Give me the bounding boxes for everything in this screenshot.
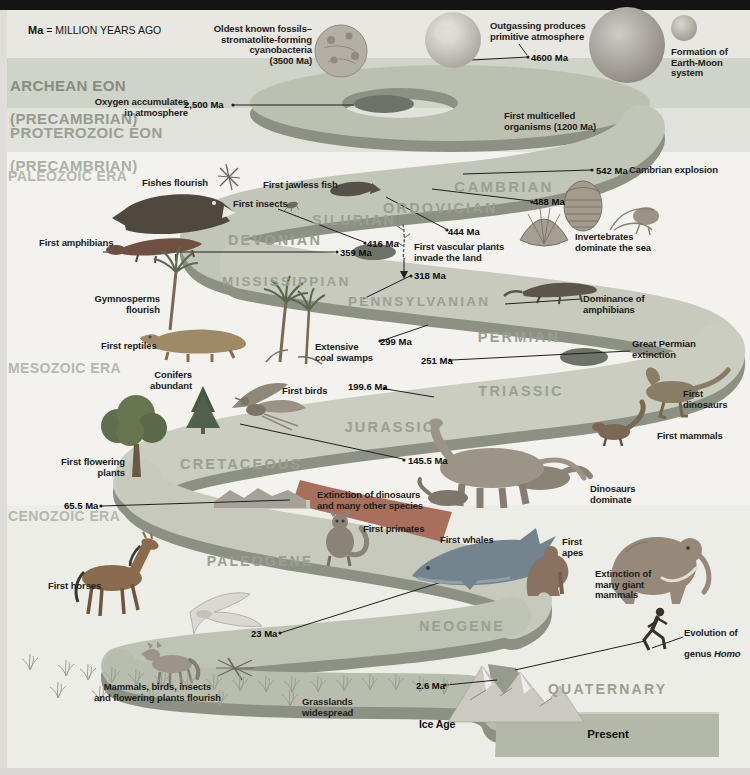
geologic-time-spiral-figure: Ma = MILLION YEARS AGO ARCHEAN EON (PREC… xyxy=(0,0,750,775)
trilobite-fossil-icon xyxy=(564,181,602,231)
event-formation-earth-moon: Formation of Earth-Moon system xyxy=(671,47,750,79)
event-first-dinosaurs: First dinosaurs xyxy=(683,389,750,410)
event-first-reptiles: First reptiles xyxy=(101,341,157,352)
marker-359ma: 359 Ma xyxy=(340,247,372,258)
earth-forming-icon xyxy=(425,12,481,68)
event-fishes-flourish: Fishes flourish xyxy=(142,178,208,189)
period-quaternary: QUATERNARY xyxy=(548,681,666,697)
event-multicelled: First multicelled organisms (1200 Ma) xyxy=(504,111,596,132)
event-grasslands: Grasslands widespread xyxy=(302,697,353,718)
event-first-mammals: First mammals xyxy=(657,431,723,442)
period-mississippian: MISSISSIPPIAN xyxy=(222,274,348,289)
period-cambrian: CAMBRIAN xyxy=(448,178,560,195)
event-cambrian-explosion: Cambrian explosion xyxy=(629,165,718,176)
event-oxygen: Oxygen accumulates in atmosphere xyxy=(93,97,188,118)
stromatolite-fossil-icon xyxy=(315,25,367,77)
running-human-icon xyxy=(644,608,667,650)
marker-2500ma: 2,500 Ma xyxy=(184,99,224,110)
period-cretaceous: CRETACEOUS xyxy=(180,456,296,472)
event-gymnosperms: Gymnosperms flourish xyxy=(75,294,160,315)
period-devonian: DEVONIAN xyxy=(219,232,331,248)
marker-2-6ma: 2.6 Ma xyxy=(416,680,445,691)
event-evolution-homo: Evolution of genus Homo xyxy=(684,617,741,660)
event-giant-mammals: Extinction of many giant mammals xyxy=(595,569,651,601)
homo-line2-prefix: genus xyxy=(684,648,714,659)
homo-italic: Homo xyxy=(714,648,741,659)
event-dinosaurs-dominate: Dinosaurs dominate xyxy=(590,484,636,505)
period-pennsylvanian: PENNSYLVANIAN xyxy=(348,294,474,309)
marker-488ma: 488 Ma xyxy=(533,196,565,207)
event-coal-swamps: Extensive coal swamps xyxy=(315,342,373,363)
event-first-insects: First insects xyxy=(233,199,288,210)
era-label-proterozoic: PROTEROZOIC EON (PRECAMBRIAN) xyxy=(10,109,163,174)
event-vascular-plants: First vascular plants invade the land xyxy=(414,242,504,263)
event-oldest-fossils: Oldest known fossils– stromatolite-formi… xyxy=(212,24,312,67)
period-silurian: SILURIAN xyxy=(299,212,409,228)
conifer-tree-icon xyxy=(186,386,220,434)
event-outgassing: Outgassing produces primitive atmosphere xyxy=(490,21,586,42)
label-present: Present xyxy=(548,728,668,741)
silurian-dragonfly-icon xyxy=(218,164,240,190)
marker-199ma: 199.6 Ma xyxy=(348,381,388,392)
marker-542ma: 542 Ma xyxy=(596,165,628,176)
brachiopod-fossil-icon xyxy=(520,208,568,246)
marker-251ma: 251 Ma xyxy=(421,355,453,366)
event-first-apes: First apes xyxy=(562,537,583,558)
era-label-mesozoic: MESOZOIC ERA xyxy=(8,361,121,376)
marker-318ma: 318 Ma xyxy=(414,270,446,281)
era-label-paleozoic: PALEOZOIC ERA xyxy=(8,169,127,184)
period-paleogene: PALEOGENE xyxy=(203,553,317,569)
period-jurassic: JURASSIC xyxy=(333,419,447,435)
earth-continent-blotch xyxy=(434,25,458,41)
label-ice-age: Ice Age xyxy=(419,719,455,731)
event-first-birds: First birds xyxy=(282,386,327,397)
event-first-jawless-fish: First jawless fish xyxy=(263,180,338,191)
event-first-primates: First primates xyxy=(363,524,424,535)
legend-ma-text: = MILLION YEARS AGO xyxy=(46,24,161,36)
legend-ma-abbrev: Ma xyxy=(28,24,43,36)
era-proterozoic-name: PROTEROZOIC EON xyxy=(10,124,163,141)
legend-ma: Ma = MILLION YEARS AGO xyxy=(28,24,161,36)
large-planet-icon xyxy=(589,7,665,83)
marker-444ma: 444 Ma xyxy=(448,226,480,237)
marker-145ma: 145.5 Ma xyxy=(408,455,448,466)
event-first-whales: First whales xyxy=(440,535,494,546)
event-conifers: Conifers abundant xyxy=(118,370,192,391)
homo-line1: Evolution of xyxy=(684,627,738,638)
event-first-amphibians: First amphibians xyxy=(39,238,113,249)
period-permian: PERMIAN xyxy=(462,329,576,345)
era-archean-name: ARCHEAN EON xyxy=(10,77,126,94)
event-dino-extinction: Extinction of dinosaurs and many other s… xyxy=(317,490,423,511)
moon-icon xyxy=(671,15,697,41)
event-permian-extinction: Great Permian extinction xyxy=(632,339,696,360)
era-label-cenozoic: CENOZOIC ERA xyxy=(8,509,120,524)
marker-65ma: 65.5 Ma xyxy=(64,500,98,511)
event-flowering-plants: First flowering plants xyxy=(47,457,125,478)
event-first-horses: First horses xyxy=(48,581,101,592)
event-amphibian-dominance: Dominance of amphibians xyxy=(583,294,645,315)
period-triassic: TRIASSIC xyxy=(464,383,578,399)
event-invertebrates: Invertebrates dominate the sea xyxy=(575,232,651,253)
marker-23ma: 23 Ma xyxy=(251,628,277,639)
horse-icon xyxy=(76,532,160,616)
marker-299ma: 299 Ma xyxy=(380,336,412,347)
event-mammals-flourish: Mammals, birds, insects and flowering pl… xyxy=(90,682,225,703)
marker-4600ma: 4600 Ma xyxy=(531,52,568,63)
kpg-landscape xyxy=(214,488,310,509)
period-neogene: NEOGENE xyxy=(406,618,518,634)
